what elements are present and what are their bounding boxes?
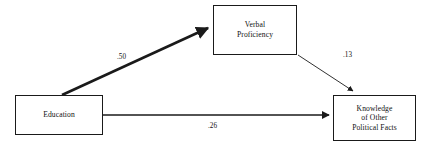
node-verbal-proficiency[interactable]: Verbal Proficiency [213,5,297,55]
node-knowledge-of-other-political-facts[interactable]: Knowledge of Other Political Facts [333,95,416,141]
coefficient-verbal-to-knowledge: .13 [343,51,352,59]
node-knowledge-label: Knowledge of Other Political Facts [350,104,399,133]
node-verbal-proficiency-label: Verbal Proficiency [235,20,275,39]
node-education[interactable]: Education [15,95,103,135]
edge-education-to-verbal [62,28,208,95]
coefficient-education-to-verbal: .50 [117,53,126,61]
edge-verbal-to-knowledge [298,55,353,91]
coefficient-education-to-knowledge: .26 [208,122,217,130]
path-diagram: Verbal Proficiency Education Knowledge o… [0,0,429,145]
node-education-label: Education [41,110,77,120]
